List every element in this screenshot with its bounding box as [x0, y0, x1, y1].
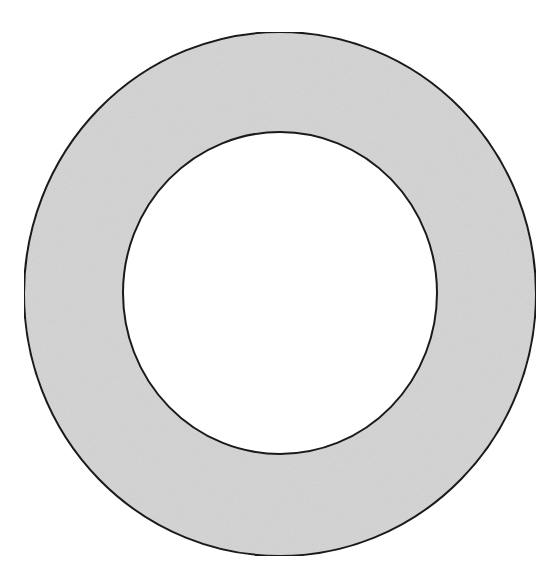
annulus-diagram: [0, 0, 558, 579]
inner-circle: [123, 132, 437, 454]
diagram-canvas: [0, 0, 558, 579]
